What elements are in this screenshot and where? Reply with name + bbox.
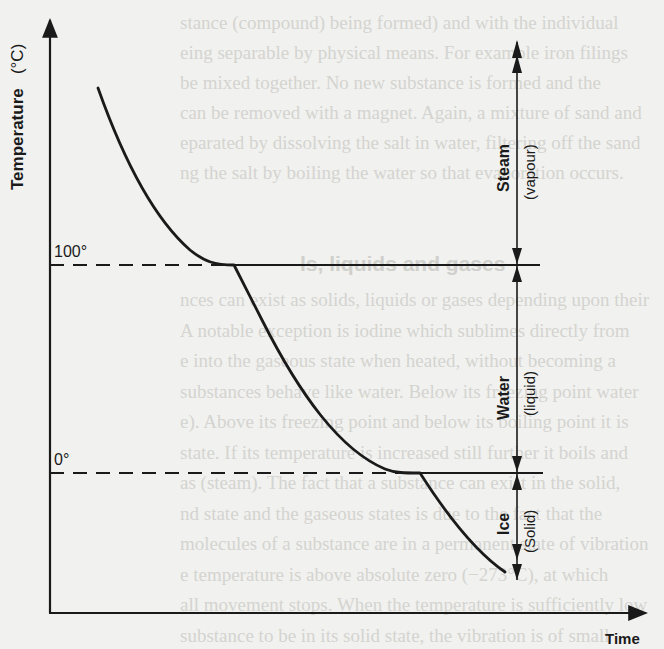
y-axis-unit: (°C) xyxy=(8,44,27,74)
y-axis-title: Temperature xyxy=(8,88,27,190)
tick-label-100: 100° xyxy=(54,243,87,261)
ice-up-arrow-icon xyxy=(512,474,522,490)
water-up-arrow-icon xyxy=(512,266,522,282)
y-axis-label: Temperature (°C) xyxy=(8,44,28,190)
phase-label-ice: Ice xyxy=(495,513,513,535)
phase-label-water: Water xyxy=(495,376,513,420)
phase-state-steam: (vapour) xyxy=(521,144,538,200)
phase-state-ice: (Solid) xyxy=(521,510,538,553)
steam-arrow-icon xyxy=(512,40,522,73)
water-down-arrow-icon xyxy=(512,456,522,472)
tick-label-0: 0° xyxy=(54,451,69,469)
phase-label-steam: Steam xyxy=(495,144,513,192)
x-axis-label: Time xyxy=(605,630,640,647)
phase-state-water: (liquid) xyxy=(521,371,538,416)
cooling-curve-diagram xyxy=(0,0,664,649)
steam-down-arrow-icon xyxy=(512,248,522,264)
cooling-curve xyxy=(98,88,505,572)
